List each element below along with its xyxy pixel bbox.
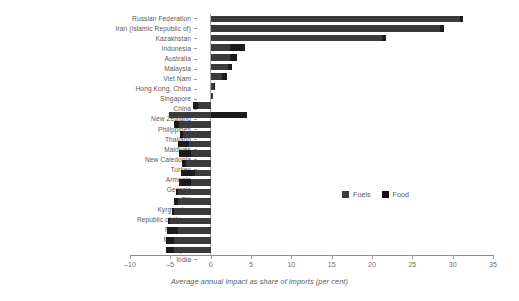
bar-segment-food — [176, 189, 178, 196]
bar-segment-fuels — [174, 208, 211, 215]
x-tick-label: 15 — [328, 261, 336, 268]
x-tick-label: –10 — [124, 261, 136, 268]
x-tick-label: –5 — [166, 261, 174, 268]
bar-segment-fuels — [211, 54, 230, 61]
bar-segment-food — [382, 35, 385, 42]
bar-segment-fuels — [198, 102, 211, 109]
bar-segment-food — [168, 218, 170, 225]
bar-segment-fuels — [174, 247, 210, 254]
bar-segment-food — [179, 150, 191, 157]
bar-row — [130, 158, 493, 168]
bar-segment-fuels — [179, 121, 210, 128]
bar-segment-food — [181, 170, 195, 177]
bar-row — [130, 226, 493, 236]
bar-segment-food — [178, 141, 189, 148]
bar-row — [130, 178, 493, 188]
bar-segment-food — [193, 102, 198, 109]
bar-segment-fuels — [178, 227, 211, 234]
bar-row — [130, 101, 493, 111]
x-tick-mark — [412, 255, 413, 259]
bar-segment-fuels — [191, 150, 210, 157]
bar-row — [130, 245, 493, 255]
bar-row — [130, 14, 493, 24]
bar-row — [130, 187, 493, 197]
x-tick-label: 30 — [449, 261, 457, 268]
bar-segment-fuels — [211, 35, 383, 42]
bar-series-container — [130, 14, 493, 255]
x-tick-label: 10 — [287, 261, 295, 268]
bar-segment-fuels — [211, 25, 440, 32]
x-axis-ticks: –10–505101520253035 — [130, 255, 493, 275]
legend-swatch-food-icon — [382, 191, 389, 198]
bar-segment-fuels — [178, 189, 210, 196]
bar-row — [130, 110, 493, 120]
bar-segment-food — [230, 44, 245, 51]
bar-segment-food — [222, 73, 227, 80]
bar-segment-food — [172, 208, 174, 215]
bar-segment-food — [230, 54, 237, 61]
bar-row — [130, 24, 493, 34]
bar-segment-food — [440, 25, 444, 32]
legend-label-food: Food — [393, 190, 409, 199]
bar-row — [130, 43, 493, 53]
bar-segment-food — [214, 83, 215, 90]
bar-row — [130, 120, 493, 130]
bar-segment-fuels — [183, 131, 210, 138]
bar-segment-food — [166, 247, 174, 254]
x-tick-mark — [291, 255, 292, 259]
bar-segment-fuels — [174, 237, 211, 244]
bar-row — [130, 235, 493, 245]
bar-segment-fuels — [211, 93, 213, 100]
bar-segment-food — [228, 64, 233, 71]
bar-segment-fuels — [178, 198, 210, 205]
chart-legend: Fuels Food — [342, 190, 409, 199]
bar-segment-food — [180, 131, 183, 138]
bar-row — [130, 81, 493, 91]
x-tick-mark — [130, 255, 131, 259]
bar-segment-fuels — [191, 179, 210, 186]
bar-segment-fuels — [170, 218, 210, 225]
bar-segment-food — [460, 16, 463, 23]
bar-row — [130, 139, 493, 149]
bar-row — [130, 197, 493, 207]
x-tick-mark — [493, 255, 494, 259]
x-tick-label: 25 — [408, 261, 416, 268]
bar-segment-food — [166, 237, 173, 244]
legend-swatch-fuels-icon — [342, 191, 349, 198]
legend-item-fuels[interactable]: Fuels — [342, 190, 371, 199]
x-tick-mark — [170, 255, 171, 259]
bar-segment-fuels — [189, 141, 211, 148]
bar-segment-fuels — [211, 16, 460, 23]
x-tick-mark — [372, 255, 373, 259]
bar-segment-fuels — [211, 73, 222, 80]
bar-row — [130, 168, 493, 178]
bar-row — [130, 62, 493, 72]
x-tick-mark — [211, 255, 212, 259]
x-axis-title: Average annual impact as share of import… — [0, 277, 519, 286]
x-tick-label: 35 — [489, 261, 497, 268]
bar-row — [130, 53, 493, 63]
x-tick-label: 0 — [209, 261, 213, 268]
legend-item-food[interactable]: Food — [382, 190, 409, 199]
plot-area — [130, 14, 493, 255]
bar-row — [130, 72, 493, 82]
bar-row — [130, 33, 493, 43]
x-tick-mark — [251, 255, 252, 259]
bar-segment-food — [179, 179, 191, 186]
bar-row — [130, 149, 493, 159]
bar-segment-fuels — [186, 160, 210, 167]
bar-row — [130, 130, 493, 140]
bar-segment-food — [174, 198, 178, 205]
bar-row — [130, 207, 493, 217]
bar-row — [130, 91, 493, 101]
bar-segment-food — [174, 121, 179, 128]
horizontal-stacked-bar-chart: Russian FederationIran (Islamic Republic… — [0, 0, 519, 301]
bar-segment-fuels — [211, 64, 228, 71]
bar-segment-food — [182, 160, 187, 167]
x-tick-label: 5 — [249, 261, 253, 268]
bar-row — [130, 216, 493, 226]
bar-segment-fuels — [195, 170, 211, 177]
bar-segment-food — [167, 227, 177, 234]
bar-segment-fuels — [211, 44, 230, 51]
bar-segment-fuels — [169, 112, 211, 119]
